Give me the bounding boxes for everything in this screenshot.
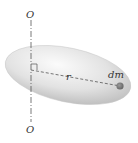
axis-label-top: O bbox=[26, 9, 34, 20]
mass-element-dot bbox=[116, 82, 123, 89]
mass-element-label: dm bbox=[108, 69, 124, 80]
diagram-canvas: O O r dm bbox=[0, 0, 138, 143]
axis-label-bottom: O bbox=[26, 124, 34, 135]
